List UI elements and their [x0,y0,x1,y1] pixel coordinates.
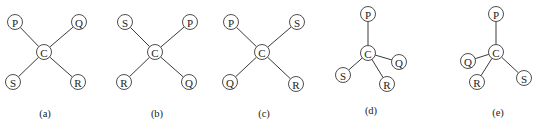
atom-p: P [489,7,504,22]
bond-c-r [372,59,383,77]
bond-c-s [268,27,292,47]
panel-caption: (c) [258,108,270,120]
bond-c-r [129,57,149,77]
atom-label: C [151,47,158,59]
atom-s: S [118,15,133,30]
atom-p: P [361,7,376,22]
atom-p: P [8,15,23,30]
panel-d: CPQSR(d) [336,7,407,118]
atom-label: R [292,79,300,91]
atom-label: P [365,9,371,21]
bond-c-q [50,27,74,47]
atom-r: R [470,75,485,90]
panel-b: CSPRQ(b) [117,15,198,121]
atom-label: R [120,77,128,89]
atom-r: R [289,77,304,92]
bond-c-p [20,27,39,46]
molecular-geometry-diagram: CPQSR(a)CSPRQ(b)CPSQR(c)CPQSR(d)CPQRS(e) [0,0,540,125]
atom-label: C [492,47,499,59]
atom-label: R [74,77,82,89]
atom-label: Q [395,57,403,69]
bond-c-q [375,55,392,60]
bond-c-r [50,57,73,77]
atom-label: Q [185,77,193,89]
center-atom-c: C [37,45,52,60]
atom-label: Q [464,56,472,68]
atom-r: R [71,75,86,90]
atom-q: Q [223,75,238,90]
center-atom-c: C [361,46,376,61]
panel-caption: (b) [151,108,164,120]
atom-s: S [6,75,21,90]
atom-q: Q [72,15,87,30]
atom-label: P [12,17,18,29]
panel-caption: (d) [365,105,378,117]
bond-c-p [161,27,185,47]
atom-s: S [517,71,532,86]
atom-label: S [10,77,16,89]
center-atom-c: C [148,45,163,60]
atom-p: P [224,15,239,30]
atom-label: C [364,48,371,60]
bond-c-r [267,57,290,79]
bond-c-q [475,54,489,58]
atom-q: Q [461,54,476,69]
panel-e: CPQRS(e) [461,7,532,120]
bond-c-p [236,27,256,47]
bond-c-s [18,57,38,77]
atom-r: R [380,77,395,92]
bond-c-s [502,57,519,73]
atom-label: S [122,17,128,29]
atom-s: S [336,68,351,83]
atom-label: S [340,70,346,82]
atom-s: S [290,15,305,30]
panel-caption: (e) [492,107,504,119]
atom-label: P [228,17,234,29]
panel-a: CPQSR(a) [6,15,87,121]
bond-c-q [235,57,256,77]
center-atom-c: C [255,45,270,60]
bond-c-s [349,58,363,70]
atom-label: C [40,47,47,59]
atom-label: P [187,17,193,29]
atom-q: Q [392,55,407,70]
atom-label: Q [226,77,234,89]
bond-c-r [481,58,492,75]
atom-label: C [258,47,265,59]
atom-label: R [383,79,391,91]
atom-label: Q [75,17,83,29]
center-atom-c: C [489,45,504,60]
atom-q: Q [182,75,197,90]
atom-label: S [521,73,527,85]
atom-p: P [183,15,198,30]
panel-c: CPSQR(c) [223,15,305,121]
atom-label: P [493,9,499,21]
bond-c-q [161,57,184,77]
atom-label: S [294,17,300,29]
atom-label: R [473,77,481,89]
panel-caption: (a) [39,108,51,120]
atom-r: R [117,75,132,90]
bond-c-s [130,27,149,46]
